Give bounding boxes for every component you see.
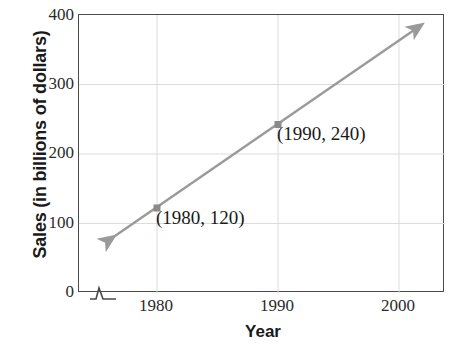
x-tick-label-1980: 1980	[121, 296, 191, 316]
chart-figure: Sales (in billions of dollars) 400 300 2…	[0, 0, 449, 347]
x-tick-label-2000: 2000	[363, 296, 433, 316]
y-tick-label-300: 300	[30, 74, 74, 94]
plot-area	[78, 14, 444, 292]
annotation-1980: (1980, 120)	[156, 207, 245, 229]
annotation-1990: (1990, 240)	[277, 123, 366, 145]
x-tick-label-1990: 1990	[242, 296, 312, 316]
axis-break-icon	[88, 283, 118, 303]
y-tick-label-200: 200	[30, 143, 74, 163]
y-tick-label-400: 400	[30, 5, 74, 25]
y-tick-label-0: 0	[30, 282, 74, 302]
y-tick-label-100: 100	[30, 213, 74, 233]
horizontal-gridlines	[79, 85, 445, 224]
y-axis-tick-labels: 400 300 200 100 0	[26, 0, 74, 347]
x-axis-title: Year	[198, 322, 328, 342]
